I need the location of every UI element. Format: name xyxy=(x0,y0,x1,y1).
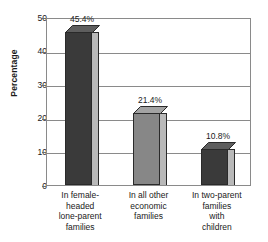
y-axis-tick-mark xyxy=(42,186,46,187)
bar-value-label: 21.4% xyxy=(130,96,170,105)
y-axis-title: Percentage xyxy=(9,27,19,119)
bar-top-face xyxy=(133,106,169,115)
x-axis-category-label: In two-parentfamilieswithchildren xyxy=(177,190,257,232)
bar-front-face xyxy=(201,149,228,185)
bar xyxy=(201,142,228,185)
bar-side-face xyxy=(228,149,235,185)
bar-side-face xyxy=(160,113,167,185)
bar xyxy=(65,25,92,185)
category-label-line: families xyxy=(40,222,120,233)
category-label-line: children xyxy=(177,222,257,233)
bar xyxy=(133,106,160,185)
category-label-line: with xyxy=(177,211,257,222)
bar-front-face xyxy=(65,32,92,185)
bar-chart: Percentage 01020304050 45.4%21.4%10.8% I… xyxy=(0,0,268,242)
bar-top-face xyxy=(201,142,237,151)
bar-top-face xyxy=(65,25,101,34)
bar-value-label: 45.4% xyxy=(62,15,102,24)
category-label-line: In two-parent xyxy=(177,190,257,201)
bar-side-face xyxy=(92,32,99,185)
category-label-line: families xyxy=(177,201,257,212)
bar-front-face xyxy=(133,113,160,185)
bar-value-label: 10.8% xyxy=(198,132,238,141)
